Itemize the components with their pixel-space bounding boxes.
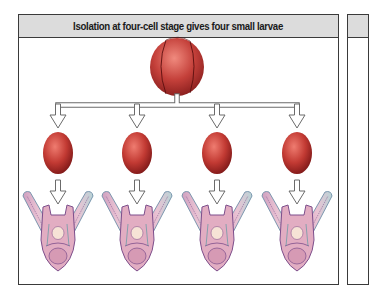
blastomere-icon — [282, 132, 312, 174]
down-arrow-icon — [129, 180, 145, 204]
larva-row — [23, 192, 332, 272]
down-arrow-icon — [289, 180, 305, 204]
four-cell-embryo-icon — [150, 37, 204, 96]
down-arrow-icon — [209, 180, 225, 204]
blastomere-icon — [43, 132, 73, 174]
blastomere-icon — [122, 132, 152, 174]
blastomere-row — [43, 132, 312, 174]
blastomere-icon — [202, 132, 232, 174]
branching-arrow-icon — [50, 96, 305, 128]
down-arrow-icon — [50, 180, 66, 204]
